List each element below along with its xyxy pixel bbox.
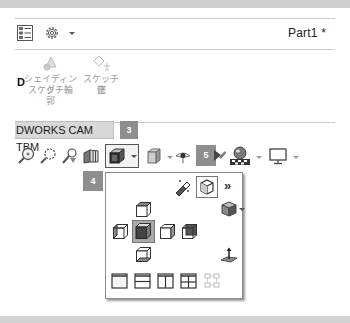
- expand-chevron-icon[interactable]: »: [224, 178, 231, 193]
- front-view-button[interactable]: [132, 220, 155, 243]
- view-orientation-popup: »: [105, 172, 243, 299]
- view-cube-toggle-button[interactable]: [196, 176, 218, 198]
- callout-badge-5: 5: [196, 145, 216, 166]
- left-view-icon[interactable]: [112, 223, 129, 240]
- front-view-icon: [133, 221, 154, 242]
- ribbon-command-modify-sketch[interactable]: スケッチ修 正: [80, 55, 122, 103]
- chevron-down-icon[interactable]: [256, 156, 262, 159]
- hide-show-items-icon[interactable]: [175, 148, 191, 164]
- chevron-down-icon[interactable]: [167, 156, 173, 159]
- zoom-to-area-icon[interactable]: [39, 147, 57, 165]
- two-view-horizontal-icon[interactable]: [134, 273, 151, 289]
- chevron-down-icon[interactable]: [239, 208, 245, 211]
- view-cube-toggle-icon: [197, 177, 217, 197]
- right-view-icon[interactable]: [159, 223, 176, 240]
- link-views-icon: [203, 272, 221, 290]
- modify-sketch-icon: [93, 55, 111, 71]
- top-view-icon[interactable]: [135, 201, 152, 218]
- chevron-down-icon[interactable]: [293, 156, 299, 159]
- callout-badge-3: 3: [120, 121, 138, 139]
- header-top-divider: [15, 18, 335, 19]
- tab-bar-line: [114, 122, 335, 123]
- chevron-down-icon[interactable]: [131, 155, 137, 158]
- bottom-view-icon[interactable]: [135, 246, 152, 263]
- shaded-sketch-contour-icon: [42, 55, 58, 71]
- view-selector-icon[interactable]: [174, 179, 192, 197]
- edit-appearance-icon[interactable]: [214, 147, 226, 165]
- tab-solidworks-cam-tbm[interactable]: DWORKS CAM TBM: [15, 121, 114, 139]
- ribbon-command-label-line2: 正: [80, 85, 122, 96]
- view-settings-icon[interactable]: [268, 147, 288, 165]
- previous-view-icon[interactable]: [61, 147, 79, 165]
- section-view-icon[interactable]: [82, 147, 100, 165]
- normal-to-icon[interactable]: [220, 246, 238, 264]
- two-view-vertical-icon[interactable]: [157, 273, 174, 289]
- isometric-view-icon[interactable]: [220, 200, 238, 218]
- view-orientation-icon: [108, 147, 126, 165]
- apply-scene-icon[interactable]: [229, 145, 251, 167]
- gear-icon[interactable]: [44, 25, 60, 41]
- four-view-icon[interactable]: [180, 273, 197, 289]
- chevron-down-icon[interactable]: [69, 32, 75, 35]
- document-title: Part1 *: [288, 26, 326, 40]
- back-view-icon[interactable]: [181, 223, 198, 240]
- ribbon-command-shaded-sketch-contour[interactable]: シェイディング スケッチ輪 郭: [22, 55, 78, 113]
- feature-manager-tree-icon[interactable]: [16, 24, 34, 42]
- ribbon-command-label-line2: スケッチ輪: [22, 85, 78, 96]
- view-orientation-button[interactable]: [105, 144, 139, 168]
- ribbon-command-label-line3: 郭: [22, 96, 78, 107]
- single-view-icon[interactable]: [111, 273, 128, 289]
- top-border-band: [0, 0, 350, 8]
- display-style-icon[interactable]: [145, 147, 163, 165]
- bottom-border-band: [0, 316, 350, 323]
- callout-badge-4: 4: [83, 171, 103, 191]
- header-bottom-divider: [15, 49, 335, 50]
- zoom-to-fit-icon[interactable]: [17, 147, 35, 165]
